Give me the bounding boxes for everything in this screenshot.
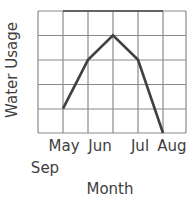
x-tick-sep: Sep bbox=[31, 159, 59, 177]
x-tick-may: May bbox=[48, 137, 79, 155]
x-tick-jun: Jun bbox=[88, 137, 111, 155]
y-axis-label: Water Usage bbox=[3, 22, 21, 118]
x-axis-label: Month bbox=[86, 180, 133, 198]
line-chart bbox=[0, 0, 189, 198]
x-tick-jul: Jul bbox=[131, 137, 149, 155]
grid bbox=[38, 11, 186, 133]
x-tick-aug: Aug bbox=[157, 137, 186, 155]
